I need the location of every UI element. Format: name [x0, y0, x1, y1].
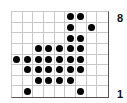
board-cell[interactable] [44, 76, 55, 87]
board-cell[interactable] [97, 44, 108, 55]
stone-icon [77, 45, 84, 52]
stone-icon [67, 13, 74, 20]
board-cell[interactable] [87, 44, 98, 55]
stone-icon [13, 56, 20, 63]
board-cell[interactable] [23, 86, 34, 97]
row-label-top: 8 [117, 12, 123, 24]
stone-icon [67, 56, 74, 63]
stone-icon [88, 24, 95, 31]
board-cell[interactable] [12, 12, 23, 23]
stone-icon [45, 77, 52, 84]
board-cell[interactable] [12, 76, 23, 87]
board-cell[interactable] [76, 86, 87, 97]
board-cell[interactable] [12, 33, 23, 44]
stone-icon [67, 66, 74, 73]
stone-icon [77, 66, 84, 73]
board-cell[interactable] [87, 76, 98, 87]
board-cell[interactable] [12, 86, 23, 97]
board-cell[interactable] [33, 44, 44, 55]
board-cell[interactable] [76, 65, 87, 76]
board-cell[interactable] [87, 65, 98, 76]
board-cell[interactable] [76, 44, 87, 55]
stone-icon [45, 66, 52, 73]
board-cell[interactable] [33, 55, 44, 66]
board-cell[interactable] [97, 33, 108, 44]
board-cell[interactable] [65, 65, 76, 76]
board-cell[interactable] [23, 12, 34, 23]
board-cell[interactable] [33, 12, 44, 23]
stone-icon [67, 45, 74, 52]
board-cell[interactable] [97, 76, 108, 87]
board-cell[interactable] [55, 55, 66, 66]
stone-icon [35, 45, 42, 52]
board-cell[interactable] [65, 23, 76, 34]
board-cell[interactable] [44, 33, 55, 44]
stone-icon [77, 35, 84, 42]
board-cell[interactable] [44, 23, 55, 34]
board-cell[interactable] [76, 76, 87, 87]
board-cell[interactable] [55, 44, 66, 55]
stone-icon [77, 13, 84, 20]
board-cell[interactable] [12, 55, 23, 66]
board-cell[interactable] [76, 55, 87, 66]
board-cell[interactable] [44, 12, 55, 23]
board-cell[interactable] [55, 33, 66, 44]
stone-icon [77, 56, 84, 63]
stone-icon [56, 66, 63, 73]
board-cell[interactable] [12, 23, 23, 34]
stone-icon [24, 88, 31, 95]
row-label-bottom: 1 [117, 88, 123, 100]
board-cell[interactable] [76, 12, 87, 23]
board-cell[interactable] [97, 23, 108, 34]
board-cell[interactable] [12, 65, 23, 76]
board-cell[interactable] [23, 55, 34, 66]
board-cell[interactable] [33, 33, 44, 44]
board-cell[interactable] [23, 76, 34, 87]
stone-icon [24, 56, 31, 63]
board-cell[interactable] [87, 23, 98, 34]
board-cell[interactable] [33, 65, 44, 76]
board-cell[interactable] [97, 55, 108, 66]
board-cell[interactable] [44, 55, 55, 66]
board-cell[interactable] [65, 55, 76, 66]
board-cell[interactable] [97, 12, 108, 23]
board-cell[interactable] [33, 86, 44, 97]
board-cell[interactable] [23, 44, 34, 55]
board-cell[interactable] [55, 12, 66, 23]
board-cell[interactable] [87, 33, 98, 44]
board-cell[interactable] [87, 12, 98, 23]
stone-icon [77, 88, 84, 95]
board-cell[interactable] [23, 33, 34, 44]
board-cell[interactable] [65, 33, 76, 44]
board-cell[interactable] [44, 44, 55, 55]
stone-icon [45, 56, 52, 63]
stone-icon [56, 56, 63, 63]
board-cell[interactable] [33, 23, 44, 34]
board-cell[interactable] [76, 33, 87, 44]
board-cell[interactable] [44, 65, 55, 76]
board-cell[interactable] [65, 12, 76, 23]
board-cell[interactable] [65, 86, 76, 97]
board-cell[interactable] [23, 65, 34, 76]
board-cell[interactable] [97, 86, 108, 97]
stone-icon [56, 45, 63, 52]
board-cell[interactable] [12, 44, 23, 55]
stone-icon [67, 24, 74, 31]
board-cell[interactable] [87, 86, 98, 97]
board-cell[interactable] [65, 44, 76, 55]
stone-icon [35, 66, 42, 73]
board-cell[interactable] [55, 86, 66, 97]
board-cell[interactable] [97, 65, 108, 76]
board-cell[interactable] [76, 23, 87, 34]
board-cell[interactable] [87, 55, 98, 66]
board-cell[interactable] [55, 65, 66, 76]
board-cell[interactable] [33, 76, 44, 87]
stone-icon [67, 35, 74, 42]
board-cell[interactable] [65, 76, 76, 87]
board-cell[interactable] [55, 76, 66, 87]
board-cell[interactable] [44, 86, 55, 97]
board-cell[interactable] [55, 23, 66, 34]
stone-icon [24, 66, 31, 73]
stone-icon [35, 56, 42, 63]
board-cell[interactable] [23, 23, 34, 34]
